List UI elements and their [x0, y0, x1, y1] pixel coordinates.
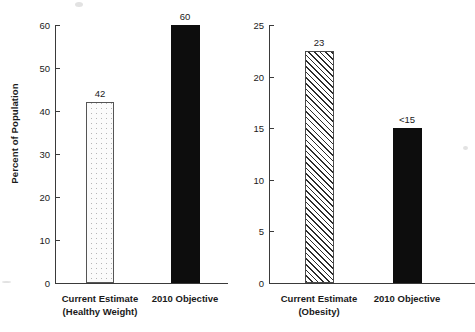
y-tick-label-15: 15: [240, 123, 264, 134]
y-tick-40: [56, 111, 60, 112]
y-tick-label-10: 10: [240, 175, 264, 186]
y-tick-label-60: 60: [26, 20, 50, 31]
x-axis-line: [269, 283, 475, 284]
bar-current-estimate-obesity: [305, 51, 334, 283]
y-tick-label-20: 20: [240, 72, 264, 83]
y-tick-0: [270, 283, 274, 284]
x-category-label-2010-objective-left: 2010 Objective: [152, 292, 219, 305]
chart-panel-obesity: 25 20 15 10 5 0 23 <15 Current Estimate …: [238, 0, 475, 332]
cat-line-1: Current Estimate: [62, 293, 139, 304]
y-tick-20: [56, 197, 60, 198]
y-tick-label-0: 0: [26, 278, 50, 289]
y-tick-30: [56, 154, 60, 155]
y-tick-10: [270, 180, 274, 181]
cat-line-1: 2010 Objective: [374, 293, 441, 304]
bar-value-label-60: 60: [180, 11, 191, 22]
x-category-label-current-estimate-obesity: Current Estimate (Obesity): [281, 292, 358, 318]
y-tick-5: [270, 231, 274, 232]
scan-artifact-speck: [2, 281, 11, 283]
cat-line-2: (Obesity): [281, 305, 358, 318]
bar-value-label-23: 23: [314, 37, 325, 48]
y-tick-25: [270, 25, 274, 26]
scan-artifact-speck: [463, 146, 468, 150]
x-category-label-2010-objective-right: 2010 Objective: [374, 292, 441, 305]
y-tick-15: [270, 128, 274, 129]
y-tick-50: [56, 68, 60, 69]
x-axis-line: [55, 283, 228, 284]
bar-2010-objective-obesity: [393, 128, 422, 283]
y-tick-10: [56, 240, 60, 241]
cat-line-1: 2010 Objective: [152, 293, 219, 304]
y-tick-20: [270, 77, 274, 78]
y-tick-label-40: 40: [26, 106, 50, 117]
cat-line-2: (Healthy Weight): [62, 305, 139, 318]
y-tick-label-10: 10: [26, 235, 50, 246]
y-tick-label-25: 25: [240, 20, 264, 31]
x-category-label-current-estimate-healthy-weight: Current Estimate (Healthy Weight): [62, 292, 139, 318]
figure-bar-charts: Percent of Population 60 50 40 30 20 10 …: [0, 0, 475, 332]
y-axis-title: Percent of Population: [9, 74, 20, 194]
bar-current-estimate-healthy-weight: [86, 102, 114, 283]
scan-artifact-speck: [75, 2, 83, 7]
bar-2010-objective-healthy-weight: [171, 25, 200, 283]
chart-panel-healthy-weight: Percent of Population 60 50 40 30 20 10 …: [0, 0, 240, 332]
y-tick-label-50: 50: [26, 63, 50, 74]
y-tick-label-5: 5: [240, 226, 264, 237]
y-tick-0: [56, 283, 60, 284]
cat-line-1: Current Estimate: [281, 293, 358, 304]
y-tick-label-0: 0: [240, 278, 264, 289]
y-axis-line: [269, 25, 270, 284]
bar-value-label-lt15: <15: [399, 114, 415, 125]
bar-value-label-42: 42: [95, 88, 106, 99]
y-tick-label-30: 30: [26, 149, 50, 160]
y-tick-60: [56, 25, 60, 26]
y-tick-label-20: 20: [26, 192, 50, 203]
